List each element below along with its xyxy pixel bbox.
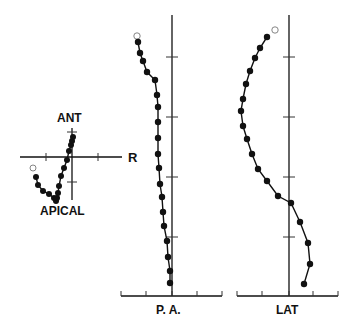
data-point <box>154 92 160 98</box>
open-start-point <box>272 27 278 33</box>
apical-label: APICAL <box>40 204 85 218</box>
data-point <box>155 119 161 125</box>
data-point <box>255 166 261 172</box>
data-point <box>275 193 281 199</box>
frontal-panel: ANT R APICAL <box>20 111 138 218</box>
open-start-point <box>134 33 140 39</box>
data-point <box>249 151 255 157</box>
data-point <box>301 281 307 287</box>
pa-label: P. A. <box>156 303 181 317</box>
data-point <box>155 104 161 110</box>
data-point <box>257 45 263 51</box>
data-point <box>46 191 52 197</box>
data-point <box>307 261 313 267</box>
data-point <box>155 151 161 157</box>
data-point <box>247 68 253 74</box>
data-point <box>159 194 165 200</box>
data-point <box>167 268 173 274</box>
data-point <box>152 77 158 83</box>
data-point <box>137 50 143 56</box>
data-point <box>240 96 246 102</box>
data-point <box>56 183 62 189</box>
data-point <box>156 165 162 171</box>
frontal-loop-points <box>30 134 76 204</box>
cardiac-vector-diagram: ANT R APICAL P. A. LAT <box>0 0 353 326</box>
pa-panel: P. A. <box>121 15 222 317</box>
data-point <box>135 39 141 45</box>
data-point <box>40 188 46 194</box>
data-point <box>264 178 270 184</box>
lat-label: LAT <box>276 303 299 317</box>
data-point <box>157 181 163 187</box>
data-point <box>167 280 173 286</box>
data-point <box>244 136 250 142</box>
data-point <box>144 69 150 75</box>
data-point <box>35 182 41 188</box>
data-point <box>160 209 166 215</box>
data-point <box>252 55 258 61</box>
data-point <box>165 254 171 260</box>
lat-points <box>238 27 313 287</box>
data-point <box>54 195 60 201</box>
data-point <box>66 148 72 154</box>
r-label: R <box>128 150 138 165</box>
lat-curve <box>241 37 310 284</box>
data-point <box>55 190 61 196</box>
data-point <box>33 174 39 180</box>
data-point <box>140 58 146 64</box>
data-point <box>161 223 167 229</box>
data-point <box>240 123 246 129</box>
data-point <box>70 134 76 140</box>
data-point <box>297 219 303 225</box>
open-start-point <box>30 165 36 171</box>
data-point <box>264 34 270 40</box>
data-point <box>155 135 161 141</box>
data-point <box>164 238 170 244</box>
lat-ticks <box>237 57 338 296</box>
data-point <box>305 240 311 246</box>
data-point <box>58 173 64 179</box>
ant-label: ANT <box>57 111 82 125</box>
data-point <box>288 200 294 206</box>
data-point <box>238 108 244 114</box>
data-point <box>243 81 249 87</box>
lat-panel: LAT <box>237 15 338 317</box>
data-point <box>64 157 70 163</box>
data-point <box>61 165 67 171</box>
